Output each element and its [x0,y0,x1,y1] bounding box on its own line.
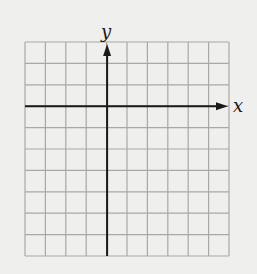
coordinate-plane: x y [0,0,257,274]
grid-diagram: x y [0,0,257,274]
y-axis-label: y [100,21,112,42]
y-axis-arrowhead-icon [103,44,111,56]
grid-lines [25,42,229,256]
x-axis-label: x [233,95,243,116]
x-axis-arrowhead-icon [216,102,228,110]
